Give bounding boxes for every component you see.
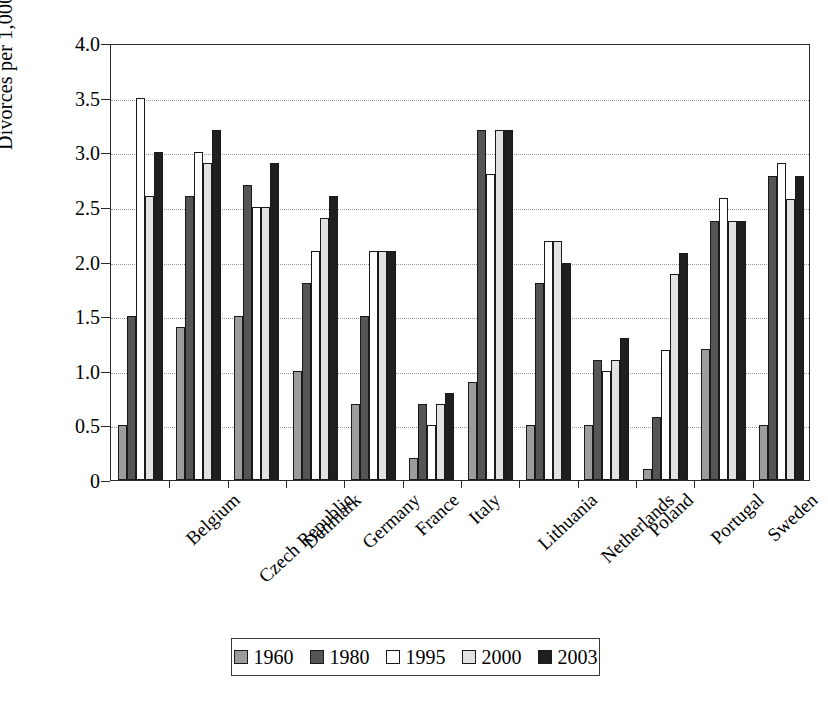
y-tick-label: 1.5	[44, 307, 100, 327]
x-tick-label: Portugal	[706, 489, 768, 549]
bar-denmark-2003	[270, 163, 279, 480]
chart-legend: 19601980199520002003	[231, 638, 600, 676]
y-axis-title: Divorces per 1,000 people	[0, 0, 17, 150]
plot-area	[110, 44, 810, 481]
bar-group	[403, 45, 461, 480]
bar-group	[461, 45, 519, 480]
y-tick-label: 0.5	[44, 416, 100, 436]
bar-lithuania-1995	[486, 174, 495, 480]
bar-united-kingdom-1960	[759, 425, 768, 480]
x-tick-label: Lithuania	[533, 489, 601, 555]
bar-sweden-2003	[737, 221, 746, 480]
bar-sweden-1995	[719, 198, 728, 480]
legend-swatch-icon	[538, 650, 552, 664]
bar-sweden-1960	[701, 349, 710, 480]
x-tick-label: Belgium	[181, 489, 244, 550]
bar-poland-1980	[593, 360, 602, 480]
y-tick-label: 3.0	[44, 143, 100, 163]
bar-czech-republic-1980	[185, 196, 194, 480]
bar-netherlands-1995	[544, 241, 553, 480]
bar-denmark-2000	[261, 207, 270, 480]
bar-netherlands-2000	[553, 241, 562, 480]
bar-lithuania-2000	[495, 130, 504, 480]
bar-united-kingdom-2003	[795, 176, 804, 480]
bar-belgium-1980	[127, 316, 136, 480]
bar-group	[228, 45, 286, 480]
bar-lithuania-2003	[504, 130, 513, 480]
chart-figure: Divorces per 1,000 people 4.03.53.02.52.…	[0, 0, 828, 704]
bar-belgium-2000	[145, 196, 154, 480]
y-tick-mark	[101, 44, 110, 45]
bar-united-kingdom-2000	[786, 199, 795, 480]
bar-netherlands-1980	[535, 283, 544, 480]
bar-germany-1960	[293, 371, 302, 480]
bar-italy-1980	[418, 404, 427, 480]
bar-germany-2000	[320, 218, 329, 480]
bar-group	[519, 45, 577, 480]
bar-italy-2000	[436, 404, 445, 480]
y-tick-mark	[101, 426, 110, 427]
bar-united-kingdom-1995	[777, 163, 786, 480]
bar-belgium-1995	[136, 98, 145, 480]
x-tick-label: France	[411, 489, 464, 540]
legend-swatch-icon	[310, 650, 324, 664]
bar-belgium-2003	[154, 152, 163, 480]
y-tick-label: 1.0	[44, 362, 100, 382]
bar-group	[344, 45, 402, 480]
bar-italy-1960	[409, 458, 418, 480]
x-tick-label: Italy	[465, 489, 505, 529]
legend-label: 2003	[558, 647, 598, 667]
y-tick-label: 3.5	[44, 89, 100, 109]
y-tick-label: 0	[44, 471, 100, 491]
bar-sweden-1980	[710, 221, 719, 480]
bar-united-kingdom-1980	[768, 176, 777, 480]
bar-italy-1995	[427, 425, 436, 480]
bar-france-1960	[351, 404, 360, 480]
x-axis-labels: BelgiumCzech RepublicDenmarkGermanyFranc…	[110, 485, 810, 625]
legend-swatch-icon	[462, 650, 476, 664]
bar-group	[111, 45, 169, 480]
bar-netherlands-2003	[562, 263, 571, 480]
bar-poland-1995	[602, 371, 611, 480]
bar-germany-1995	[311, 251, 320, 480]
legend-label: 1980	[330, 647, 370, 667]
bar-group	[286, 45, 344, 480]
bar-group	[578, 45, 636, 480]
y-tick-label: 2.5	[44, 198, 100, 218]
bar-denmark-1960	[234, 316, 243, 480]
bar-belgium-1960	[118, 425, 127, 480]
bar-lithuania-1960	[468, 382, 477, 480]
bar-france-1980	[360, 316, 369, 480]
legend-item-1980: 1980	[310, 647, 370, 667]
bar-france-2003	[387, 251, 396, 480]
bar-portugal-2003	[679, 253, 688, 480]
bar-denmark-1995	[252, 207, 261, 480]
y-tick-mark	[101, 208, 110, 209]
bar-germany-1980	[302, 283, 311, 480]
bar-italy-2003	[445, 393, 454, 480]
bar-portugal-1995	[661, 350, 670, 480]
legend-item-2000: 2000	[462, 647, 522, 667]
x-tick-label: Sweden	[763, 489, 822, 546]
legend-item-1960: 1960	[234, 647, 294, 667]
bar-group	[694, 45, 752, 480]
bar-poland-2003	[620, 338, 629, 480]
bar-portugal-1980	[652, 417, 661, 480]
bar-group	[636, 45, 694, 480]
bar-czech-republic-1960	[176, 327, 185, 480]
legend-label: 2000	[482, 647, 522, 667]
bar-lithuania-1980	[477, 130, 486, 480]
bar-sweden-2000	[728, 221, 737, 480]
bar-poland-1960	[584, 425, 593, 480]
y-tick-mark	[101, 99, 110, 100]
bar-denmark-1980	[243, 185, 252, 480]
y-tick-mark	[101, 372, 110, 373]
y-tick-mark	[101, 317, 110, 318]
bar-portugal-2000	[670, 274, 679, 480]
bar-portugal-1960	[643, 469, 652, 480]
bar-germany-2003	[329, 196, 338, 480]
y-tick-mark	[101, 153, 110, 154]
bar-czech-republic-1995	[194, 152, 203, 480]
legend-item-2003: 2003	[538, 647, 598, 667]
legend-swatch-icon	[234, 650, 248, 664]
